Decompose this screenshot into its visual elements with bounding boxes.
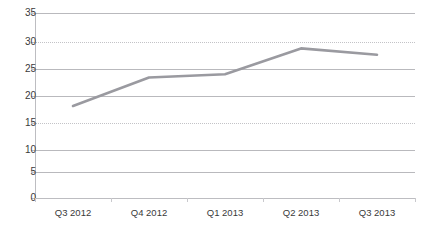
data-line-series-1 bbox=[73, 48, 377, 106]
plot-area: 35 30 25 20 15 10 5 0 Q3 2012 Q4 2012 Q1… bbox=[0, 0, 421, 232]
data-series-layer bbox=[0, 0, 421, 232]
line-chart: 35 30 25 20 15 10 5 0 Q3 2012 Q4 2012 Q1… bbox=[0, 0, 421, 232]
